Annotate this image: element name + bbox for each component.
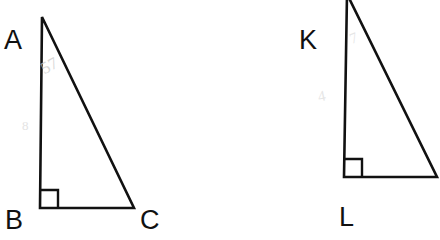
triangle-abc-outline xyxy=(40,17,134,208)
right-angle-marker-b xyxy=(40,190,58,208)
triangle-klm xyxy=(344,0,437,177)
vertex-label-l: L xyxy=(339,204,354,231)
vertex-label-b: B xyxy=(5,207,23,234)
figure-canvas: 57 8 7 4 A B C K L xyxy=(0,0,440,240)
right-angle-marker-l xyxy=(344,159,362,177)
geometry-figure xyxy=(0,0,440,240)
vertex-label-k: K xyxy=(299,27,317,54)
vertex-label-c: C xyxy=(140,207,160,234)
triangle-klm-outline xyxy=(344,0,437,177)
vertex-label-a: A xyxy=(4,27,22,54)
triangle-abc xyxy=(40,17,134,208)
